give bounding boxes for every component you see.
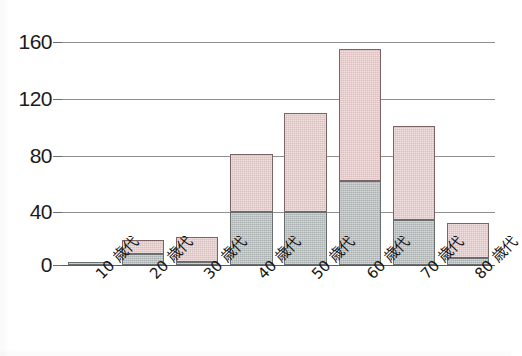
bar-segment-upper (393, 126, 435, 221)
y-tick-label-120: 120 (18, 87, 52, 111)
y-tick-mark-80 (53, 156, 62, 157)
y-tick-mark-160 (53, 42, 62, 43)
y-tick-mark-0 (53, 265, 62, 266)
bar-segment-upper (284, 113, 326, 212)
bar-segment-upper (230, 154, 272, 213)
bar-segment-upper (339, 49, 381, 181)
y-tick-label-80: 80 (30, 144, 52, 168)
y-tick-mark-40 (53, 212, 62, 213)
y-tick-label-40: 40 (30, 200, 52, 224)
x-axis-labels: 10 歳代20 歳代30 歳代40 歳代50 歳代60 歳代70 歳代80 歳代 (62, 268, 495, 356)
y-tick-label-160: 160 (18, 30, 52, 54)
y-tick-mark-120 (53, 99, 62, 100)
y-axis: 160 120 80 40 0 (0, 0, 58, 356)
y-tick-label-0: 0 (41, 253, 52, 277)
